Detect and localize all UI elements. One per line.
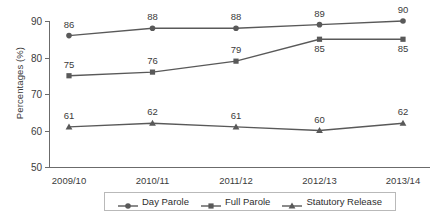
x-axis-tick-label: 2013/14 bbox=[386, 175, 420, 186]
data-point-label: 75 bbox=[64, 59, 75, 70]
x-axis-tick-label: 2012/13 bbox=[302, 175, 336, 186]
series-lines bbox=[49, 21, 430, 168]
circle-marker bbox=[150, 26, 156, 32]
data-point-label: 85 bbox=[398, 43, 409, 54]
square-marker bbox=[208, 203, 213, 208]
y-axis-tick-label: 60 bbox=[31, 125, 42, 136]
data-point-label: 76 bbox=[147, 55, 158, 66]
data-point-label: 85 bbox=[314, 43, 325, 54]
legend-label: Statutory Release bbox=[306, 196, 382, 207]
data-point-label: 90 bbox=[398, 4, 409, 15]
plot-area: 5060708090 2009/102010/112011/122012/132… bbox=[49, 21, 430, 167]
circle-marker bbox=[233, 26, 239, 32]
data-point-label: 89 bbox=[314, 8, 325, 19]
data-point-label: 61 bbox=[231, 110, 242, 121]
x-axis-tick-label: 2011/12 bbox=[219, 175, 253, 186]
x-axis-tick-label: 2009/10 bbox=[52, 175, 86, 186]
circle-icon bbox=[118, 197, 138, 207]
y-axis-tick-label: 70 bbox=[31, 89, 42, 100]
circle-marker bbox=[66, 33, 72, 39]
chart-legend: Day ParoleFull ParoleStatutory Release bbox=[104, 192, 396, 211]
circle-marker bbox=[317, 22, 323, 28]
square-icon bbox=[201, 197, 221, 207]
data-point-label: 88 bbox=[231, 11, 242, 22]
data-point-label: 60 bbox=[314, 114, 325, 125]
square-marker bbox=[317, 37, 322, 42]
legend-item-statutory-release[interactable]: Statutory Release bbox=[282, 196, 382, 207]
y-axis-title: Percentages (%) bbox=[14, 0, 28, 168]
legend-label: Full Parole bbox=[225, 196, 270, 207]
y-axis-tick-label: 90 bbox=[31, 16, 42, 27]
x-axis-tick-label: 2010/11 bbox=[136, 175, 170, 186]
triangle-icon bbox=[282, 197, 302, 207]
data-point-label: 62 bbox=[147, 106, 158, 117]
square-marker bbox=[400, 37, 405, 42]
y-axis-tick-label: 80 bbox=[31, 52, 42, 63]
data-point-label: 79 bbox=[231, 44, 242, 55]
square-marker bbox=[66, 73, 71, 78]
legend-item-day-parole[interactable]: Day Parole bbox=[118, 196, 189, 207]
square-marker bbox=[150, 70, 155, 75]
data-point-label: 88 bbox=[147, 11, 158, 22]
data-point-label: 61 bbox=[64, 110, 75, 121]
data-point-label: 62 bbox=[398, 106, 409, 117]
circle-marker bbox=[125, 203, 131, 209]
line-chart: Percentages (%) 5060708090 2009/102010/1… bbox=[0, 0, 440, 223]
square-marker bbox=[233, 59, 238, 64]
legend-label: Day Parole bbox=[142, 196, 189, 207]
y-axis-tick-label: 50 bbox=[31, 162, 42, 173]
legend-item-full-parole[interactable]: Full Parole bbox=[201, 196, 270, 207]
data-point-label: 86 bbox=[64, 19, 75, 30]
circle-marker bbox=[400, 18, 406, 24]
